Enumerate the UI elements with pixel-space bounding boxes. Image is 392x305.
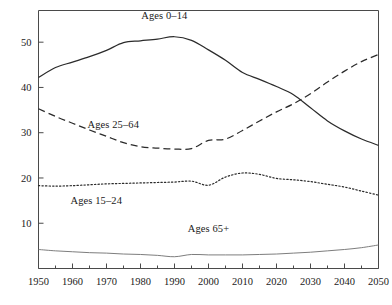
x-tick-label: 1990 [164,276,185,287]
x-tick-label: 1980 [130,276,151,287]
x-tick-label: 2050 [368,276,389,287]
chart-figure: 1020304050195019601970198019902000201020… [0,0,392,305]
x-tick-label: 1960 [62,276,83,287]
chart-canvas: 1020304050195019601970198019902000201020… [0,0,392,305]
series-label-ages-15-24: Ages 15–24 [71,195,122,206]
y-tick-label: 50 [21,37,32,48]
series-label-ages-25-64: Ages 25–64 [88,119,139,130]
series-label-ages-65-plus: Ages 65+ [188,223,229,234]
x-tick-label: 1970 [96,276,117,287]
y-tick-label: 20 [21,173,32,184]
series-line-ages-65-plus [39,245,379,257]
y-tick-label: 10 [21,218,32,229]
x-tick-label: 2020 [266,276,287,287]
x-tick-label: 2000 [198,276,219,287]
series-line-ages-15-24 [39,173,379,195]
x-tick-label: 1950 [28,276,49,287]
x-tick-label: 2010 [232,276,253,287]
x-tick-label: 2030 [300,276,321,287]
series-line-ages-25-64 [39,54,379,149]
series-label-ages-0-14: Ages 0–14 [141,10,187,21]
y-tick-label: 30 [21,127,32,138]
y-tick-label: 40 [21,82,32,93]
x-tick-label: 2040 [334,276,355,287]
